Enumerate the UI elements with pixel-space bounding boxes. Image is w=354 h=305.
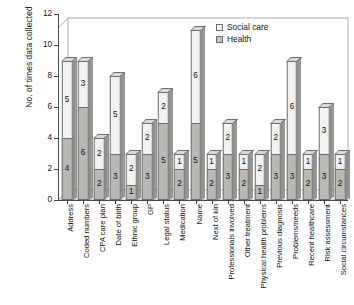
bar-segment-health[interactable]: 2 bbox=[206, 169, 217, 200]
bar-segment-social[interactable]: 1 bbox=[238, 154, 249, 170]
category-slot: GP bbox=[139, 204, 155, 302]
stacked-bar[interactable]: 12 bbox=[335, 154, 346, 201]
category-slot: CPA care plan bbox=[91, 204, 107, 302]
stacked-bar[interactable]: 63 bbox=[287, 61, 298, 201]
bar-segment-health[interactable]: 2 bbox=[238, 169, 249, 200]
bar-segment-social[interactable]: 5 bbox=[110, 76, 121, 154]
y-axis-ticks: 024681012 bbox=[44, 14, 58, 200]
stacked-bar[interactable]: 25 bbox=[158, 92, 169, 201]
stacked-bar[interactable]: 54 bbox=[62, 61, 73, 201]
bar-segment-social[interactable]: 1 bbox=[174, 154, 185, 170]
stacked-bar[interactable]: 33 bbox=[319, 107, 330, 200]
bar-segment-social[interactable]: 6 bbox=[287, 61, 298, 154]
y-tick-mark bbox=[54, 169, 58, 170]
bar-segment-social[interactable]: 2 bbox=[126, 154, 137, 185]
bar-value-label: 2 bbox=[274, 134, 279, 142]
stacked-bar[interactable]: 12 bbox=[206, 154, 217, 201]
bar-segment-health[interactable]: 3 bbox=[142, 154, 153, 201]
bar-segment-social[interactable]: 5 bbox=[62, 61, 73, 139]
bar-value-label: 3 bbox=[225, 173, 230, 181]
category-slot: Physical health problems bbox=[252, 204, 268, 302]
bar-segment-health[interactable]: 6 bbox=[78, 107, 89, 200]
category-label: Next of kin bbox=[212, 204, 220, 240]
bar-slot: 21 bbox=[123, 14, 139, 200]
stacked-bar[interactable]: 23 bbox=[142, 123, 153, 201]
category-slot: Medication bbox=[171, 204, 187, 302]
bar-slot: 22 bbox=[91, 14, 107, 200]
bar-segment-social[interactable]: 6 bbox=[190, 30, 201, 123]
bar-segment-health[interactable]: 5 bbox=[158, 123, 169, 201]
y-axis-title: No. of times data collected bbox=[24, 0, 34, 142]
bar-segment-social[interactable]: 2 bbox=[142, 123, 153, 154]
y-tick-label: 12 bbox=[43, 9, 52, 19]
bar-value-label: 2 bbox=[177, 180, 182, 188]
category-slot: Professionals involved bbox=[220, 204, 236, 302]
bar-value-label: 1 bbox=[258, 188, 263, 196]
stacked-bar[interactable]: 12 bbox=[303, 154, 314, 201]
bar-slot: 53 bbox=[107, 14, 123, 200]
bar-right-face bbox=[345, 150, 349, 200]
bar-slot: 65 bbox=[188, 14, 204, 200]
stacked-bar[interactable]: 21 bbox=[255, 154, 266, 201]
y-tick-mark bbox=[54, 45, 58, 46]
stacked-bar[interactable]: 53 bbox=[110, 76, 121, 200]
bar-value-label: 2 bbox=[129, 165, 134, 173]
category-label: Name bbox=[196, 204, 204, 224]
stacked-bar[interactable]: 23 bbox=[271, 123, 282, 201]
bar-segment-health[interactable]: 3 bbox=[287, 154, 298, 201]
stacked-bar[interactable]: 21 bbox=[126, 154, 137, 201]
bar-value-label: 3 bbox=[145, 173, 150, 181]
bar-segment-social[interactable]: 2 bbox=[222, 123, 233, 154]
bar-value-label: 5 bbox=[193, 157, 198, 165]
bar-segment-health[interactable]: 1 bbox=[255, 185, 266, 201]
legend-item-health[interactable]: Health bbox=[216, 34, 268, 45]
bar-segment-social[interactable]: 1 bbox=[303, 154, 314, 170]
category-slot: Risk assessment bbox=[316, 204, 332, 302]
legend-label: Health bbox=[227, 34, 251, 45]
stacked-bar[interactable]: 36 bbox=[78, 61, 89, 201]
bar-segment-health[interactable]: 2 bbox=[174, 169, 185, 200]
bar-segment-social[interactable]: 2 bbox=[255, 154, 266, 185]
legend-item-social[interactable]: Social care bbox=[216, 22, 268, 33]
stacked-bar[interactable]: 65 bbox=[190, 30, 201, 201]
category-slot: Legal status bbox=[155, 204, 171, 302]
bar-segment-health[interactable]: 1 bbox=[126, 185, 137, 201]
bar-segment-health[interactable]: 3 bbox=[319, 154, 330, 201]
category-slot: Ethnic group bbox=[123, 204, 139, 302]
bar-segment-social[interactable]: 2 bbox=[94, 138, 105, 169]
stacked-bar[interactable]: 12 bbox=[174, 154, 185, 201]
bar-value-label: 3 bbox=[81, 80, 86, 88]
bar-segment-social[interactable]: 2 bbox=[158, 92, 169, 123]
legend-swatch-icon bbox=[216, 36, 223, 43]
bar-segment-health[interactable]: 3 bbox=[222, 154, 233, 201]
bar-segment-social[interactable]: 3 bbox=[319, 107, 330, 154]
stacked-bar[interactable]: 23 bbox=[222, 123, 233, 201]
bar-value-label: 2 bbox=[145, 134, 150, 142]
bar-segment-health[interactable]: 3 bbox=[271, 154, 282, 201]
bar-value-label: 1 bbox=[129, 188, 134, 196]
category-label: GP bbox=[147, 204, 155, 215]
bar-segment-social[interactable]: 1 bbox=[206, 154, 217, 170]
stacked-bar[interactable]: 12 bbox=[238, 154, 249, 201]
bar-segment-health[interactable]: 2 bbox=[303, 169, 314, 200]
bar-value-label: 3 bbox=[322, 173, 327, 181]
bar-segment-social[interactable]: 2 bbox=[271, 123, 282, 154]
category-slot: Address bbox=[59, 204, 75, 302]
category-label: Professionals involved bbox=[228, 204, 236, 280]
bar-value-label: 6 bbox=[81, 149, 86, 157]
bar-value-label: 1 bbox=[177, 158, 182, 166]
bar-slot: 12 bbox=[171, 14, 187, 200]
bar-value-label: 3 bbox=[274, 173, 279, 181]
y-tick-label: 0 bbox=[47, 195, 52, 205]
legend-swatch-icon bbox=[216, 24, 223, 31]
bar-segment-health[interactable]: 5 bbox=[190, 123, 201, 201]
category-slot: Date of birth bbox=[107, 204, 123, 302]
bar-segment-health[interactable]: 2 bbox=[335, 169, 346, 200]
bar-segment-health[interactable]: 4 bbox=[62, 138, 73, 200]
bar-segment-health[interactable]: 3 bbox=[110, 154, 121, 201]
bar-segment-health[interactable]: 2 bbox=[94, 169, 105, 200]
bar-segment-social[interactable]: 1 bbox=[335, 154, 346, 170]
bar-slot: 63 bbox=[284, 14, 300, 200]
stacked-bar[interactable]: 22 bbox=[94, 138, 105, 200]
bar-segment-social[interactable]: 3 bbox=[78, 61, 89, 108]
